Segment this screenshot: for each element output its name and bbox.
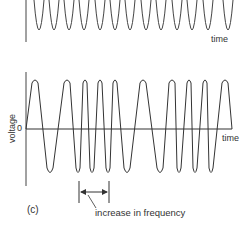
top-time-label: time [211,35,228,44]
bottom-time-label: time [222,134,239,143]
top-waveform [34,0,233,30]
frequency-annotation: increase in frequency [95,208,185,218]
bottom-waveform [26,80,232,173]
arrowhead-right-icon [102,189,108,195]
panel-label: (c) [27,205,39,215]
zero-label: 0 [17,124,22,133]
voltage-label: voltage [8,109,17,149]
arrowhead-left-icon [80,189,86,195]
